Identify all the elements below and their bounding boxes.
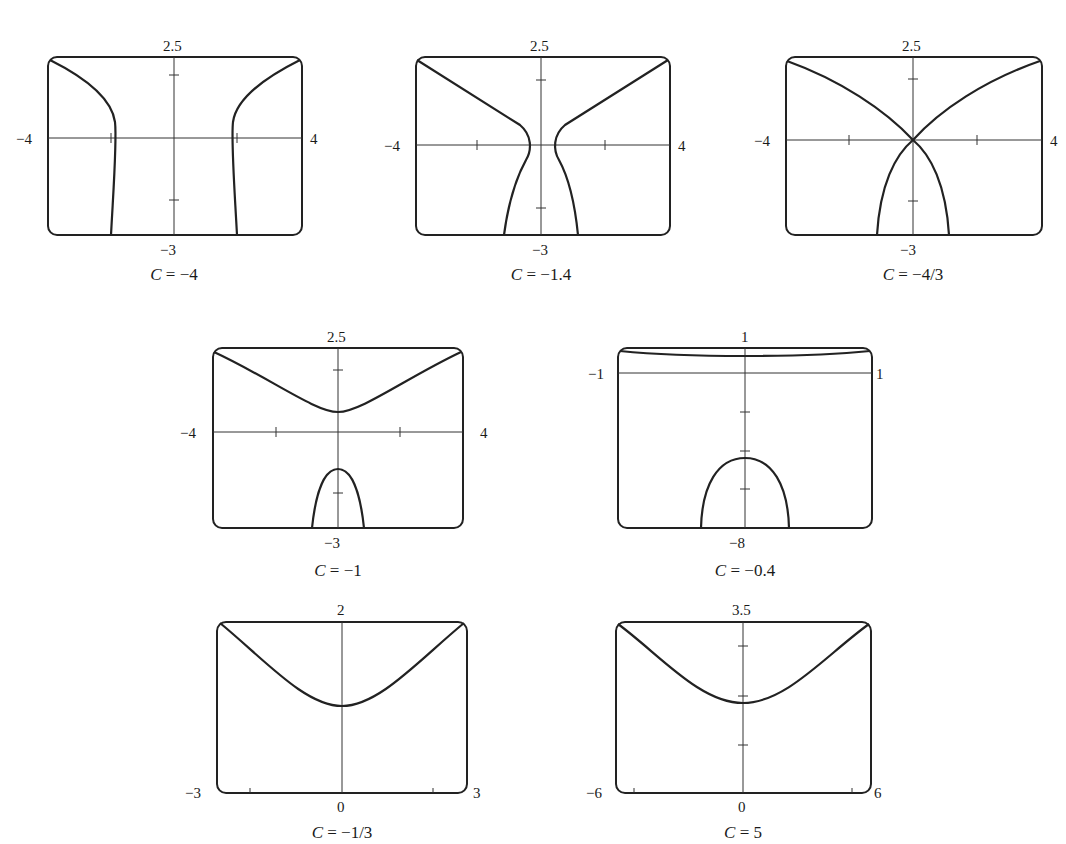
- x-min-label: −1: [588, 367, 604, 382]
- plot-c-minus-0-4: 1 −8 −1 1 C = −0.4: [540, 300, 880, 560]
- plot-c-5: 3.5 0 −6 6 C = 5: [540, 560, 880, 844]
- plot-c-minus-1: 2.5 −3 −4 4 C = −1: [190, 300, 530, 560]
- x-min-label: −4: [180, 426, 196, 441]
- plot-canvas: [540, 300, 880, 560]
- plot-c-minus-1-4: 2.5 −3 −4 4 C = −1.4: [360, 0, 720, 290]
- x-max-label: 4: [678, 139, 686, 154]
- plot-canvas: [190, 300, 530, 560]
- y-max-label: 2.5: [902, 39, 921, 54]
- x-max-label: 1: [876, 367, 884, 382]
- x-min-label: −4: [16, 132, 32, 147]
- y-max-label: 2.5: [327, 330, 346, 345]
- y-max-label: 3.5: [732, 603, 751, 618]
- x-min-label: −4: [754, 134, 770, 149]
- plot-canvas: [190, 560, 530, 844]
- plot-caption: C = −4: [150, 266, 198, 283]
- x-max-label: 4: [1050, 134, 1058, 149]
- plot-caption: C = −1/3: [312, 824, 373, 841]
- plot-canvas: [540, 560, 880, 844]
- y-max-label: 2: [337, 603, 345, 618]
- plot-canvas: [720, 0, 1066, 290]
- x-max-label: 4: [480, 426, 488, 441]
- x-min-label: −6: [586, 786, 602, 801]
- y-min-label: 0: [337, 800, 345, 815]
- plot-c-minus-4: 2.5 −3 −4 4 C = −4: [0, 0, 360, 290]
- x-max-label: 4: [310, 132, 318, 147]
- x-max-label: 6: [874, 786, 882, 801]
- y-min-label: −8: [729, 536, 745, 551]
- plot-caption: C = 5: [724, 824, 762, 841]
- y-min-label: 0: [738, 800, 746, 815]
- x-max-label: 3: [473, 786, 481, 801]
- y-min-label: −3: [324, 536, 340, 551]
- x-min-label: −3: [185, 786, 201, 801]
- plot-caption: C = −1.4: [511, 266, 571, 283]
- plot-c-minus-1-3: 2 0 −3 3 C = −1/3: [190, 560, 530, 844]
- y-min-label: −3: [160, 243, 176, 258]
- y-max-label: 1: [741, 330, 749, 345]
- y-max-label: 2.5: [163, 39, 182, 54]
- plot-c-minus-4-3: 2.5 −3 −4 4 C = −4/3: [720, 0, 1066, 290]
- y-min-label: −3: [532, 243, 548, 258]
- x-min-label: −4: [384, 139, 400, 154]
- y-max-label: 2.5: [530, 39, 549, 54]
- y-min-label: −3: [900, 243, 916, 258]
- plot-caption: C = −4/3: [883, 266, 944, 283]
